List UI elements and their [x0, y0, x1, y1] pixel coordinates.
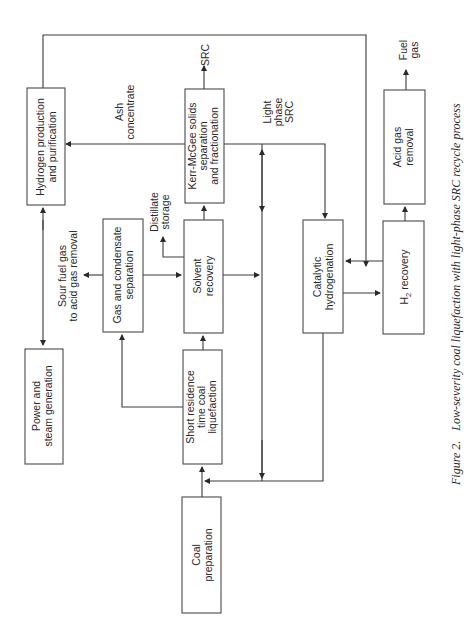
power-label-1: Power and [30, 381, 42, 431]
catalytic-label-2: hydrogenation [323, 244, 335, 311]
gas-condensate-label-2: separation [123, 250, 135, 299]
gas-condensate-label-1: Gas and condensate [111, 226, 123, 323]
h2-recovery-box: H2 recovery [383, 221, 424, 334]
acid-gas-label-1: Acid gas [391, 127, 403, 167]
catalytic-label-1: Catalytic [311, 257, 323, 297]
acid-gas-removal-box: Acid gas removal [384, 90, 425, 204]
figure-caption: Figure 2.Low-severity coal liquefaction … [449, 103, 463, 486]
src-label: SRC [199, 43, 211, 66]
solvent-label-1: Solvent [191, 258, 203, 293]
light-label-3: SRC [283, 100, 295, 123]
gas-label: gas [408, 42, 420, 59]
process-flow-diagram: Hydrogen production and purification Ker… [0, 0, 473, 637]
short-residence-box: Short residence time coal liquefaction [183, 350, 222, 464]
coal-prep-label-2: preparation [202, 528, 214, 581]
light-phase-line [224, 144, 325, 218]
coal-preparation-box: Coal preparation [182, 497, 221, 613]
power-steam-box: Power and steam generation [25, 349, 63, 464]
hydrogen-label-1: Hydrogen production [34, 98, 46, 196]
distillate-label-2: storage [159, 194, 171, 229]
sour-gas-label-2: to acid gas removal [67, 230, 79, 321]
solvent-label-2: recovery [203, 255, 215, 296]
recycle-bottom-line [205, 333, 323, 481]
coal-prep-label-1: Coal [190, 544, 202, 566]
hydrogen-production-box: Hydrogen production and purification [27, 88, 65, 205]
hydrogen-label-2: and purification [46, 111, 58, 182]
solvent-recovery-box: Solvent recovery [184, 220, 223, 333]
liquefaction-to-gas [122, 335, 183, 407]
kerr-mcgee-box: Kerr-McGee solids separation and fractio… [185, 89, 224, 203]
power-label-2: steam generation [42, 365, 54, 446]
caption-number: Figure 2.Low-severity coal liquefaction … [449, 103, 463, 486]
ash-label-2: concentrate [124, 84, 136, 139]
catalytic-hydrogenation-box: Catalytic hydrogenation [303, 220, 343, 333]
acid-gas-label-2: removal [403, 128, 415, 165]
kerr-mcgee-label-3: and fractionation [208, 107, 220, 185]
short-residence-label-3: liquefaction [206, 380, 218, 433]
distillate-arrow [163, 237, 184, 257]
gas-condensate-box: Gas and condensate separation [103, 219, 143, 332]
